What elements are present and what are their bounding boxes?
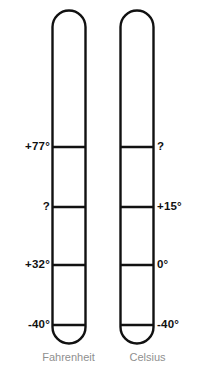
fahrenheit-tick-label-1: +77° <box>25 141 50 153</box>
celsius-tick-label-1: ? <box>157 141 164 153</box>
fahrenheit-tick-label-4: -40° <box>28 319 50 331</box>
celsius-tick-label-2: +15° <box>157 201 182 213</box>
fahrenheit-tick-label-3: +32° <box>25 259 50 271</box>
fahrenheit-tick-label-2: ? <box>43 201 50 213</box>
celsius-scale-caption: Celsius <box>96 351 199 364</box>
celsius-tube-outline <box>121 11 154 344</box>
celsius-tick-label-3: 0° <box>157 259 168 271</box>
thermometer-comparison-diagram: +77° ? +32° -40° ? +15° 0° -40° Fahrenhe… <box>0 0 199 376</box>
celsius-tick-label-4: -40° <box>157 319 179 331</box>
fahrenheit-tube-outline <box>53 11 86 344</box>
